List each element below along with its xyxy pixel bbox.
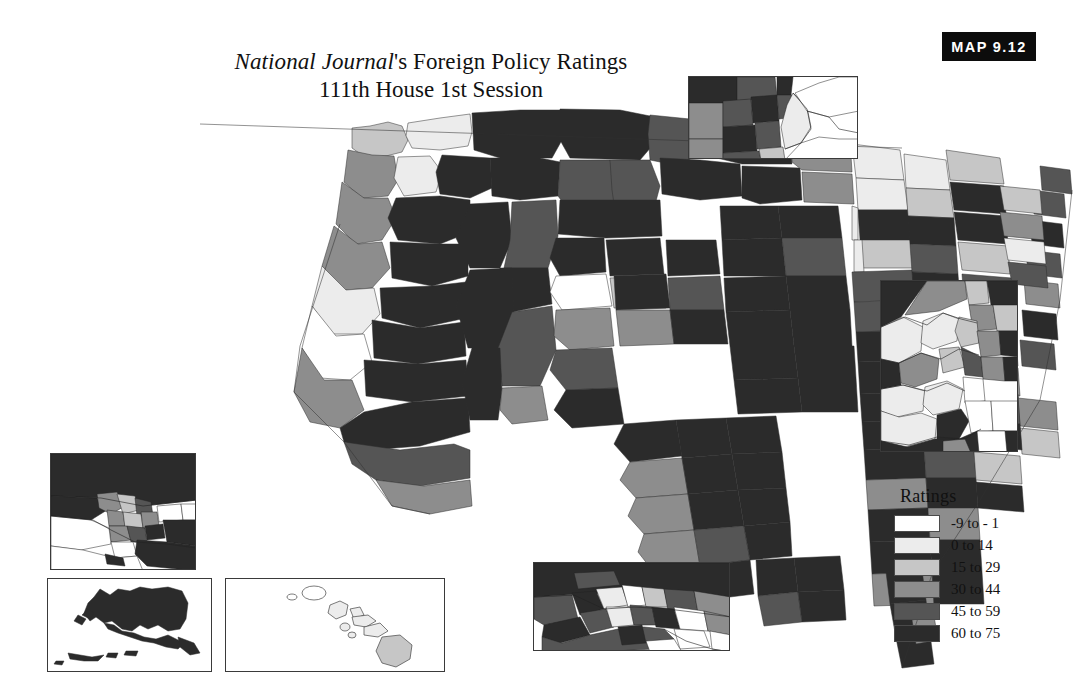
inset-map-hawaii: Hawaii (225, 578, 445, 672)
journal-name: National Journal (235, 49, 394, 74)
map-page: National Journal's Foreign Policy Rating… (0, 0, 1081, 694)
inset-map-chicago: Chicago (688, 76, 858, 159)
legend-rows: -9 to - 10 to 1415 to 2930 to 4445 to 59… (894, 513, 1054, 644)
title-line-primary-rest: 's Foreign Policy Ratings (394, 49, 627, 74)
legend-row: 45 to 59 (894, 601, 1054, 622)
legend-row: -9 to - 1 (894, 513, 1054, 534)
legend-title: Ratings (900, 486, 1054, 507)
legend-label: 30 to 44 (951, 581, 1000, 598)
legend-row: 30 to 44 (894, 579, 1054, 600)
inset-map-los-angeles: Los Angeles (50, 453, 196, 570)
title-line-primary: National Journal's Foreign Policy Rating… (196, 48, 666, 76)
inset-map-houston: Houston (533, 562, 730, 651)
legend-label: 60 to 75 (951, 625, 1000, 642)
legend-swatch (894, 581, 940, 598)
inset-map-alaska: Alaska (47, 578, 212, 672)
legend-label: 45 to 59 (951, 603, 1000, 620)
inset-map-new-york: New York (880, 280, 1018, 452)
legend-label: 15 to 29 (951, 559, 1000, 576)
legend-swatch (894, 559, 940, 576)
legend-row: 0 to 14 (894, 535, 1054, 556)
legend-row: 60 to 75 (894, 623, 1054, 644)
legend-swatch (894, 625, 940, 642)
map-title: National Journal's Foreign Policy Rating… (196, 48, 666, 104)
legend-swatch (894, 537, 940, 554)
title-line-secondary: 111th House 1st Session (196, 76, 666, 104)
legend-label: -9 to - 1 (951, 515, 999, 532)
legend-swatch (894, 603, 940, 620)
map-legend: Ratings -9 to - 10 to 1415 to 2930 to 44… (894, 486, 1054, 645)
legend-row: 15 to 29 (894, 557, 1054, 578)
legend-label: 0 to 14 (951, 537, 993, 554)
legend-swatch (894, 515, 940, 532)
map-number-badge: MAP 9.12 (942, 32, 1036, 61)
